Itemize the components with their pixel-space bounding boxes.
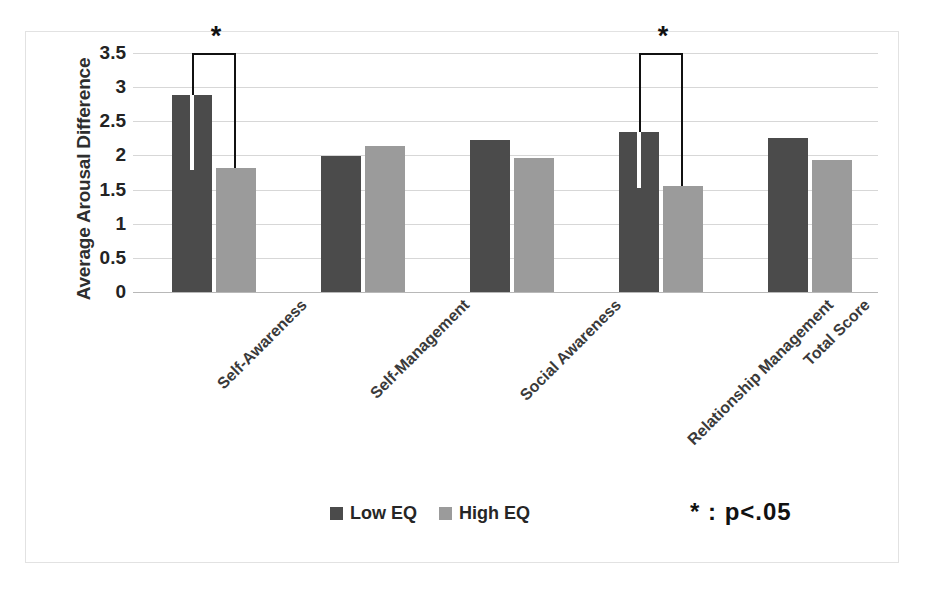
x-axis-label: Self-Awareness	[214, 296, 311, 393]
legend-item[interactable]: High EQ	[439, 503, 530, 524]
y-tick-label: 3.5	[70, 42, 126, 64]
x-axis-label: Social Awareness	[517, 296, 625, 404]
significance-footnote: * : p<.05	[690, 498, 792, 526]
bar-high-eq[interactable]	[365, 146, 405, 292]
legend-label: Low EQ	[350, 503, 417, 524]
y-axis-tick-labels: 3.532.521.510.50	[62, 53, 126, 292]
plot-area: **	[133, 53, 878, 292]
y-tick-label: 0.5	[70, 247, 126, 269]
significance-asterisk: *	[211, 23, 222, 50]
bar-high-eq[interactable]	[514, 158, 554, 292]
y-tick-label: 0	[70, 281, 126, 303]
significance-bracket	[192, 53, 236, 168]
y-tick-label: 1.5	[70, 179, 126, 201]
bar-low-eq[interactable]	[768, 138, 808, 292]
bar-group	[729, 53, 878, 292]
x-axis-label: Self-Management	[367, 296, 473, 402]
chart-legend: Low EQHigh EQ	[330, 503, 530, 524]
significance-asterisk: *	[658, 23, 669, 50]
bar-low-eq[interactable]	[470, 140, 510, 292]
bar-group	[282, 53, 431, 292]
bracket-arm-mask	[190, 95, 194, 170]
bar-high-eq[interactable]	[812, 160, 852, 292]
y-tick-label: 2	[70, 144, 126, 166]
bracket-arm-mask	[637, 132, 641, 189]
legend-item[interactable]: Low EQ	[330, 503, 417, 524]
significance-bracket	[639, 53, 683, 186]
y-tick-label: 1	[70, 213, 126, 235]
bar-high-eq[interactable]	[663, 186, 703, 292]
bar-group	[431, 53, 580, 292]
bar-low-eq[interactable]	[321, 156, 361, 292]
legend-label: High EQ	[459, 503, 530, 524]
x-axis-label: Relationship Management	[684, 296, 837, 449]
y-tick-label: 3	[70, 76, 126, 98]
x-axis-category-labels: Self-AwarenessSelf-ManagementSocial Awar…	[133, 296, 878, 426]
chart-figure: Average Arousal Difference 3.532.521.510…	[0, 0, 926, 598]
y-tick-label: 2.5	[70, 110, 126, 132]
axis-baseline	[133, 292, 878, 293]
legend-swatch-icon	[330, 507, 343, 520]
bar-high-eq[interactable]	[216, 168, 256, 292]
legend-swatch-icon	[439, 507, 452, 520]
